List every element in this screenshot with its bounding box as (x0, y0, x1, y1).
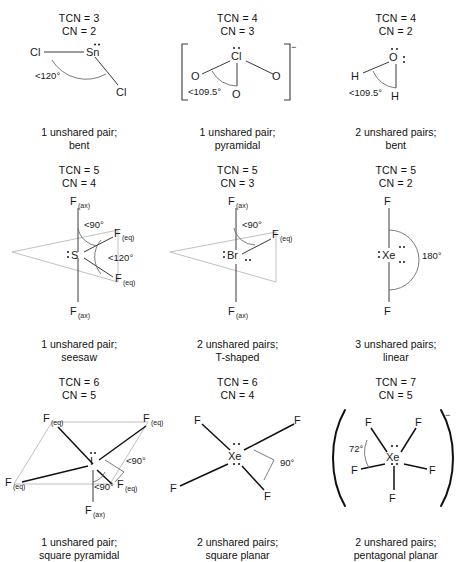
cn-label: CN = 5 (375, 389, 416, 402)
structure-drawing-if5: I F (eq) F (eq) F (eq) F (eq) F (ax) <90… (0, 402, 158, 536)
cell-header: TCN = 5 CN = 3 (217, 164, 258, 190)
cell-caption: 1 unshared pair; seesaw (41, 338, 117, 364)
lone-pair-dot (403, 56, 405, 58)
cn-label: CN = 3 (217, 25, 258, 38)
atom-label-cl-left: Cl (30, 46, 40, 58)
atom-label-cl-center: Cl (231, 50, 241, 62)
bond-cl-o-right (246, 61, 273, 74)
atom-label-f-eq-2: F (143, 412, 150, 424)
atom-sub-axial-top: (ax) (78, 202, 90, 210)
lone-pair-dot (223, 256, 225, 258)
lone-pair-dot (233, 463, 235, 465)
atom-label-f-eq-lower: F (115, 272, 122, 284)
atom-label-f-4: F (429, 464, 436, 476)
atom-label-f-1: F (365, 416, 372, 428)
cell-header: TCN = 3 CN = 2 (59, 12, 100, 38)
right-parenthesis (441, 410, 453, 506)
lone-pair-dot (238, 463, 240, 465)
tcn-label: TCN = 5 (375, 164, 416, 177)
lone-pair-dot (233, 47, 235, 49)
shape-name: pyramidal (200, 139, 276, 152)
equatorial-plane (12, 230, 118, 282)
bond-sn-cl-right (95, 57, 118, 85)
bond-f-right (404, 464, 427, 469)
angle-label-109: <109.5° (349, 87, 382, 98)
unshared-pairs-text: 1 unshared pair; (200, 126, 276, 139)
tcn-label: TCN = 7 (375, 376, 416, 389)
atom-sub-eq-4: (eq) (125, 485, 137, 493)
charge-label: − (291, 42, 296, 52)
atom-sub-axial-bottom: (ax) (236, 312, 248, 320)
atom-label-f-eq-4: F (117, 478, 124, 490)
cn-label: CN = 2 (59, 25, 100, 38)
angle-label-90: <90° (242, 219, 262, 230)
cell-caption: 2 unshared pairs; pentagonal planar (354, 536, 438, 562)
atom-sub-eq: (eq) (280, 235, 292, 243)
atom-label-f-axial-top: F (70, 195, 77, 207)
charge-label: − (445, 410, 450, 420)
angle-arc (212, 71, 237, 86)
lone-pair-dot (391, 445, 393, 447)
cell-header: TCN = 4 CN = 2 (375, 12, 416, 38)
cell-header: TCN = 7 CN = 5 (375, 376, 416, 402)
tcn-label: TCN = 5 (59, 164, 100, 177)
atom-label-xe-center: Xe (386, 451, 399, 463)
lone-pair-dot (403, 246, 405, 248)
bond-f-upper-left (371, 428, 387, 452)
atom-label-f-3: F (351, 464, 358, 476)
tcn-label: TCN = 3 (59, 12, 100, 25)
cell-header: TCN = 6 CN = 4 (217, 376, 258, 402)
lone-pair-dot (396, 445, 398, 447)
atom-sub-eq-upper: (eq) (122, 234, 134, 242)
tcn-label: TCN = 6 (59, 376, 100, 389)
cn-label: CN = 4 (217, 389, 258, 402)
angle-label-180: 180° (422, 250, 442, 261)
cell-caption: 1 unshared pair; square pyramidal (39, 536, 120, 562)
shape-name: square planar (197, 549, 278, 562)
lone-pair-dot (396, 48, 398, 50)
cell-caption: 2 unshared pairs; square planar (197, 536, 278, 562)
bond-f-left (361, 464, 385, 469)
atom-label-f-4: F (264, 490, 271, 502)
atom-label-o-bottom: O (232, 88, 241, 100)
cell-caption: 1 unshared pair; bent (41, 126, 117, 152)
lone-pair-dot (378, 251, 380, 253)
angle-label-90-upper: <90° (126, 455, 146, 466)
atom-label-f-axial-top: F (228, 195, 235, 207)
unshared-pairs-text: 2 unshared pairs; (355, 126, 436, 139)
atom-label-cl-right: Cl (116, 86, 126, 98)
cn-label: CN = 4 (59, 177, 100, 190)
angle-arc-90 (78, 228, 97, 246)
unshared-pairs-text: 1 unshared pair; (41, 338, 117, 351)
atom-label-f-axial-bottom: F (70, 305, 77, 317)
cell-header: TCN = 5 CN = 4 (59, 164, 100, 190)
lone-pair-dot (67, 256, 69, 258)
structure-drawing-xef5: − Xe F F (317, 402, 475, 536)
tcn-label: TCN = 4 (375, 12, 416, 25)
structure-drawing-brf3: Br F (ax) F (ax) F (eq) <90° (158, 190, 316, 338)
lone-pair-dot (391, 48, 393, 50)
atom-label-f-1: F (194, 414, 201, 426)
bond-f-upper-right (244, 424, 294, 450)
atom-label-br-center: Br (227, 249, 238, 261)
atom-label-f-bottom: F (384, 305, 391, 317)
atom-label-sn: Sn (86, 46, 99, 58)
tcn-label: TCN = 6 (217, 376, 258, 389)
unshared-pairs-text: 1 unshared pair; (39, 536, 120, 549)
atom-sub-eq-lower: (eq) (123, 279, 135, 287)
structure-drawing-xef4: Xe F F F F 90° (158, 402, 316, 536)
shape-name: seesaw (41, 351, 117, 364)
atom-label-f-5: F (389, 492, 396, 504)
bond-f-upper-right (401, 428, 416, 452)
atom-label-xe-center: Xe (228, 450, 241, 462)
atom-label-h-bottom: H (391, 90, 399, 102)
atom-label-o-left: O (191, 70, 200, 82)
atom-sub-eq-3: (eq) (13, 483, 25, 491)
structure-drawing-h2o: O H H <109.5° (317, 38, 475, 126)
bond-f-upper-left (202, 424, 230, 450)
atom-label-i-center: I (90, 455, 93, 467)
atom-label-f-eq-1: F (43, 412, 50, 424)
bond-f-lower-right (242, 466, 264, 490)
geometry-cell-xef2: TCN = 5 CN = 2 Xe F F (317, 152, 475, 364)
atom-label-h-left: H (351, 70, 359, 82)
